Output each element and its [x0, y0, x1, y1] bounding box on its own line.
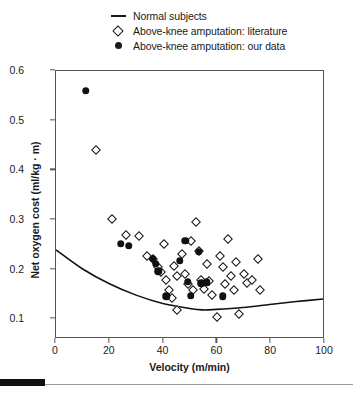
x-tick-mark [216, 338, 217, 343]
data-point-literature [253, 254, 263, 264]
legend-item-our-data: Above-knee amputation: our data [107, 38, 347, 53]
x-tick-mark [108, 338, 109, 343]
x-tick-label: 100 [304, 344, 344, 356]
legend-item-normal-subjects: Normal subjects [107, 8, 347, 23]
data-point-literature [221, 279, 231, 289]
legend-label: Normal subjects [129, 10, 207, 22]
data-point-literature [218, 262, 228, 272]
data-point-literature [255, 285, 265, 295]
footer-accent-bar [0, 379, 45, 386]
data-point-our-data [152, 260, 160, 268]
data-point-literature [212, 312, 222, 322]
data-point-our-data [82, 87, 90, 95]
x-tick-label: 0 [35, 344, 75, 356]
data-point-our-data [117, 240, 125, 248]
data-point-literature [159, 239, 169, 249]
legend-label: Above-knee amputation: literature [129, 25, 287, 37]
data-point-our-data [195, 248, 203, 256]
oxygen-cost-velocity-figure: Normal subjects Above-knee amputation: l… [0, 0, 353, 393]
y-tick-label: 0.6 [0, 64, 24, 76]
data-point-literature [172, 305, 182, 315]
data-point-literature [207, 290, 217, 300]
data-point-our-data [187, 292, 195, 300]
y-tick-label: 0.5 [0, 114, 24, 126]
x-tick-mark [270, 338, 271, 343]
y-tick-label: 0.3 [0, 213, 24, 225]
y-tick-label: 0.2 [0, 263, 24, 275]
open-diamond-marker-icon [107, 27, 129, 35]
plot-frame [55, 70, 324, 338]
data-point-literature [202, 259, 212, 269]
x-tick-mark [162, 338, 163, 343]
data-point-our-data [154, 267, 162, 275]
chart-legend: Normal subjects Above-knee amputation: l… [107, 8, 347, 53]
data-point-literature [234, 309, 244, 319]
y-tick-label: 0.4 [0, 163, 24, 175]
y-tick-label: 0.1 [0, 312, 24, 324]
data-point-literature [215, 251, 225, 261]
data-point-literature [229, 285, 239, 295]
data-point-literature [134, 231, 144, 241]
data-point-our-data [176, 257, 184, 265]
x-tick-mark [54, 338, 55, 343]
data-point-our-data [163, 293, 171, 301]
x-tick-label: 60 [196, 344, 236, 356]
data-point-our-data [219, 293, 227, 301]
data-point-literature [91, 145, 101, 155]
data-point-literature [223, 234, 233, 244]
data-point-our-data [181, 237, 189, 245]
x-tick-label: 20 [89, 344, 129, 356]
x-axis-label: Velocity (m/min) [55, 361, 324, 373]
line-marker-icon [107, 15, 129, 17]
data-point-literature [191, 217, 201, 227]
y-axis-label: Net oxygen cost (ml/kg · m) [29, 95, 41, 325]
scatter-points-layer [56, 71, 323, 337]
data-point-our-data [203, 279, 211, 287]
filled-circle-marker-icon [107, 42, 129, 49]
legend-item-literature: Above-knee amputation: literature [107, 23, 347, 38]
data-point-our-data [184, 278, 192, 286]
data-point-literature [121, 230, 131, 240]
data-point-literature [161, 275, 171, 285]
data-point-literature [231, 257, 241, 267]
x-tick-label: 80 [250, 344, 290, 356]
data-point-literature [226, 272, 236, 282]
data-point-literature [108, 214, 118, 224]
footer-divider [0, 384, 353, 385]
legend-label: Above-knee amputation: our data [129, 40, 285, 52]
data-point-our-data [125, 242, 133, 250]
x-tick-mark [323, 338, 324, 343]
x-tick-label: 40 [143, 344, 183, 356]
